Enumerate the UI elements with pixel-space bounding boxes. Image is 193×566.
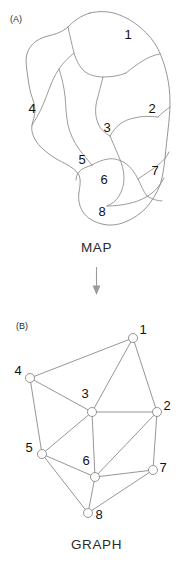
map-region-label-6: 6 — [100, 172, 107, 187]
graph-node-label-1: 1 — [139, 322, 146, 337]
graph-node-label-8: 8 — [95, 507, 102, 522]
panel-a-label: (A) — [10, 14, 22, 24]
graph-edge-5-8 — [42, 454, 88, 513]
graph-node-label-3: 3 — [81, 386, 88, 401]
map-region-label-8: 8 — [98, 204, 105, 219]
map-region-label-2: 2 — [148, 101, 155, 116]
map-border-11 — [107, 178, 164, 206]
graph-node-label-6: 6 — [82, 453, 89, 468]
map-border-1 — [68, 27, 126, 77]
graph-edge-1-3 — [92, 338, 133, 412]
map-region-label-5: 5 — [78, 152, 85, 167]
map-region-label-4: 4 — [28, 101, 35, 116]
map-border-8 — [76, 165, 92, 180]
map-outline-path — [26, 12, 170, 225]
graph-edges — [30, 338, 157, 513]
graph-node-label-4: 4 — [14, 363, 21, 378]
map-region-label-3: 3 — [103, 120, 110, 135]
graph-node-8[interactable] — [84, 509, 93, 518]
graph-node-7[interactable] — [149, 466, 158, 475]
graph-diagram: 12345678 — [14, 322, 170, 522]
map-border-6 — [32, 53, 74, 125]
graph-edge-3-6 — [92, 412, 95, 477]
graph-node-label-2: 2 — [163, 398, 170, 413]
figure-container: 12345678 12345678 (A) (B) MAP GRAPH — [0, 0, 193, 566]
graph-edge-2-7 — [153, 412, 157, 470]
graph-edge-3-5 — [42, 412, 92, 454]
map-region-labels: 12345678 — [28, 27, 158, 219]
map-border-2 — [126, 54, 160, 73]
graph-node-label-7: 7 — [159, 460, 166, 475]
graph-edge-2-6 — [95, 412, 157, 477]
graph-edge-6-8 — [88, 477, 95, 513]
graph-node-4[interactable] — [26, 374, 35, 383]
map-region-label-7: 7 — [151, 163, 158, 178]
figure-canvas: 12345678 12345678 — [0, 0, 193, 566]
graph-node-1[interactable] — [129, 334, 138, 343]
map-diagram: 12345678 — [26, 12, 170, 225]
graph-node-3[interactable] — [88, 408, 97, 417]
graph-edge-1-4 — [30, 338, 133, 378]
graph-node-6[interactable] — [91, 473, 100, 482]
map-caption: MAP — [0, 240, 193, 255]
graph-nodes — [26, 334, 162, 518]
down-arrow-icon — [93, 267, 101, 295]
map-border-4 — [110, 116, 158, 136]
map-border-10 — [107, 136, 124, 206]
graph-node-label-5: 5 — [25, 440, 32, 455]
map-region-label-1: 1 — [124, 27, 131, 42]
graph-node-5[interactable] — [38, 450, 47, 459]
graph-node-2[interactable] — [153, 408, 162, 417]
map-border-7 — [59, 69, 92, 165]
panel-b-label: (B) — [16, 321, 28, 331]
graph-caption: GRAPH — [0, 537, 193, 552]
graph-edge-1-2 — [133, 338, 157, 412]
map-border-5 — [158, 107, 170, 117]
